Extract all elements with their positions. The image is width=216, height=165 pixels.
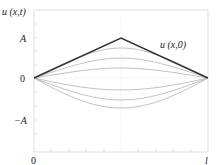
x-tick-l: l — [205, 155, 208, 165]
y-tick-zero: 0 — [20, 73, 25, 84]
chart: u (x,t) A 0 −A 0 l u (x,0) — [0, 0, 216, 165]
y-axis-label: u (x,t) — [2, 6, 27, 18]
x-tick-zero: 0 — [31, 155, 36, 165]
curve-label: u (x,0) — [160, 39, 187, 51]
y-tick-A: A — [19, 33, 27, 44]
gridlines — [34, 10, 208, 152]
y-tick-negA: −A — [14, 115, 28, 126]
